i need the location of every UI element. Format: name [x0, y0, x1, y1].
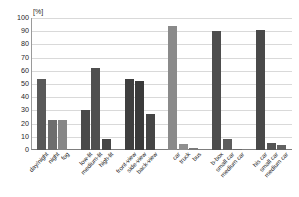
y-axis-tick-label: 40	[21, 94, 29, 101]
bar-chart: [%] 0102030405060708090100 day/nightnigh…	[0, 0, 299, 197]
y-axis-tick-label: 100	[17, 14, 29, 21]
bar	[146, 114, 155, 150]
bar	[233, 149, 242, 150]
y-axis-tick-label: 50	[21, 80, 29, 87]
bars-layer	[31, 18, 292, 150]
bar	[58, 120, 67, 150]
x-axis-tick-label: day/night	[28, 151, 49, 173]
bar	[168, 26, 177, 150]
y-axis-tick-label: 20	[21, 120, 29, 127]
x-axis-tick-label: fog	[60, 151, 70, 161]
x-axis-labels: day/nightnightfoglow-litmedium-lithigh-l…	[31, 151, 292, 197]
bar	[91, 68, 100, 150]
y-axis-tick-label: 80	[21, 41, 29, 48]
bar	[277, 145, 286, 150]
bar	[48, 120, 57, 150]
bar	[135, 81, 144, 150]
bar	[125, 79, 134, 150]
y-axis-unit-label: [%]	[33, 8, 43, 15]
bar	[102, 139, 111, 150]
y-axis-tick-label: 30	[21, 107, 29, 114]
bar	[212, 31, 221, 150]
x-axis-tick-label: bus	[191, 151, 202, 162]
bar	[223, 139, 232, 150]
bar	[81, 110, 90, 150]
y-axis-tick-label: 0	[25, 146, 29, 153]
bar	[179, 144, 188, 150]
bar	[256, 30, 265, 150]
y-axis-tick-label: 90	[21, 28, 29, 35]
y-axis-tick-label: 60	[21, 67, 29, 74]
y-axis-tick-label: 70	[21, 54, 29, 61]
bar	[37, 79, 46, 150]
y-axis-tick-label: 10	[21, 133, 29, 140]
bar	[267, 143, 276, 150]
